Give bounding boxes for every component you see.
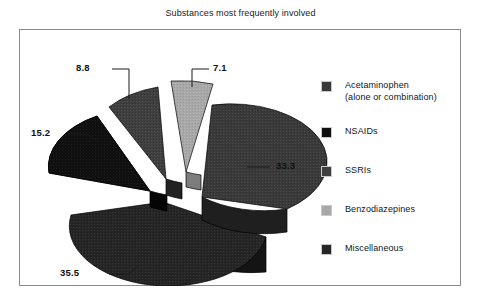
legend-item-ssris[interactable]: SSRIs	[321, 165, 371, 177]
leader-line-ssris	[112, 69, 129, 99]
datalabel-acetaminophen: 33.3	[276, 160, 295, 171]
legend-label-miscellaneous: Miscellaneous	[345, 243, 403, 255]
legend-label-acetaminophen: Acetaminophen (alone or combination)	[345, 80, 437, 103]
legend-swatch-miscellaneous	[321, 244, 332, 255]
legend-swatch-acetaminophen	[321, 81, 332, 92]
datalabel-benzodiazepines: 7.1	[213, 62, 227, 73]
datalabel-ssris: 8.8	[76, 62, 90, 73]
legend-label-nsaids: NSAIDs	[345, 126, 378, 138]
legend-swatch-ssris	[321, 166, 332, 177]
legend-item-benzodiazepines[interactable]: Benzodiazepines	[321, 204, 415, 216]
chart-title: Substances most frequently involved	[0, 8, 481, 18]
legend-item-nsaids[interactable]: NSAIDs	[321, 126, 378, 138]
datalabel-miscellaneous: 35.5	[60, 267, 79, 278]
datalabel-nsaids: 15.2	[31, 127, 50, 138]
legend-item-acetaminophen[interactable]: Acetaminophen (alone or combination)	[321, 80, 437, 103]
legend-label-ssris: SSRIs	[345, 165, 371, 177]
legend-swatch-nsaids	[321, 127, 332, 138]
pie-slice-acetaminophen[interactable]	[202, 104, 327, 234]
chart-figure: Substances most frequently involved	[0, 0, 481, 305]
legend-label-benzodiazepines: Benzodiazepines	[345, 204, 415, 216]
legend-item-miscellaneous[interactable]: Miscellaneous	[321, 243, 403, 255]
legend-swatch-benzodiazepines	[321, 205, 332, 216]
